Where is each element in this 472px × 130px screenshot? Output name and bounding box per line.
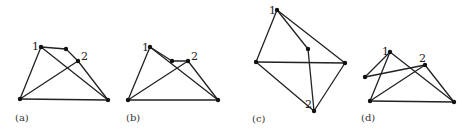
vertex-bl <box>368 99 372 103</box>
vertex-label: 2 <box>81 50 88 63</box>
vertex-label: 2 <box>419 52 426 65</box>
vertex-br <box>452 100 456 104</box>
vertex-label: 2 <box>191 50 198 63</box>
vertex-label: 1 <box>269 4 276 17</box>
edge-1-br <box>41 47 108 100</box>
panel-caption: (b) <box>126 112 140 123</box>
edge-1-r <box>277 10 345 63</box>
vertex-2 <box>186 59 190 63</box>
edge-1-bl <box>370 52 390 101</box>
vertex-label: 1 <box>382 45 389 58</box>
vertex-bl <box>126 98 130 102</box>
vertex-m <box>306 47 310 51</box>
edge-1-bl <box>20 47 41 99</box>
edge-1-m <box>277 10 308 49</box>
panel-caption: (c) <box>252 113 266 124</box>
panel-c: 12(c) <box>252 4 347 124</box>
edge-bl-br <box>370 101 454 102</box>
edge-bl-2 <box>128 61 188 100</box>
vertex-1 <box>39 45 43 49</box>
edge-r-2 <box>314 63 345 111</box>
edge-1-l <box>256 10 277 62</box>
edge-1-br <box>150 47 218 100</box>
vertex-bl <box>18 97 22 101</box>
vertex-label: 1 <box>32 40 39 53</box>
panel-caption: (d) <box>361 112 375 123</box>
vertex-l <box>363 75 367 79</box>
edge-1-m <box>41 47 66 49</box>
vertex-2 <box>76 59 80 63</box>
vertex-r <box>343 61 347 65</box>
edge-m-2 <box>66 49 78 61</box>
edge-bl-br <box>20 99 108 100</box>
vertex-br <box>106 98 110 102</box>
vertex-label: 1 <box>142 41 149 54</box>
vertex-label: 2 <box>305 98 312 111</box>
vertex-l <box>254 60 258 64</box>
vertex-m <box>170 59 174 63</box>
vertex-m <box>64 47 68 51</box>
panel-a: 12(a) <box>15 40 110 123</box>
edge-1-bl <box>128 47 150 100</box>
panel-d: 12(d) <box>361 45 456 123</box>
graph-figure: 12(a)12(b)12(c)12(d) <box>0 0 472 130</box>
panel-caption: (a) <box>15 112 29 123</box>
panel-b: 12(b) <box>126 41 220 123</box>
edge-bl-2 <box>20 61 78 99</box>
vertex-br <box>216 98 220 102</box>
edge-l-r <box>256 62 345 63</box>
vertex-2 <box>312 109 316 113</box>
